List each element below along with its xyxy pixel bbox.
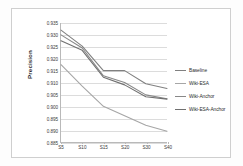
chart-figure: Precision 0.8850.8900.8950.9000.9050.910…: [0, 0, 243, 166]
data-series-lines: [61, 23, 167, 142]
legend-label: Wiki-ESA-Anchor: [189, 107, 225, 112]
x-tick-mark: [125, 142, 126, 144]
legend-item[interactable]: Wiki-Anchor: [175, 91, 243, 102]
legend-swatch-icon: [175, 70, 186, 71]
series-line: [61, 35, 167, 99]
y-tick-label: 0.885: [47, 141, 58, 146]
legend-swatch-icon: [175, 96, 186, 97]
legend-swatch-icon: [175, 83, 186, 84]
x-tick-mark: [61, 142, 62, 144]
y-tick-label: 0.905: [47, 93, 58, 98]
legend-item[interactable]: Wiki-ESA-Anchor: [175, 104, 243, 115]
x-tick-mark: [168, 142, 169, 144]
legend-swatch-icon: [175, 109, 186, 110]
x-tick-label: S20: [121, 145, 129, 150]
x-tick-label: S5: [58, 145, 64, 150]
x-tick-label: S10: [78, 145, 86, 150]
legend-label: Wiki-ESA: [189, 81, 209, 86]
y-tick-label: 0.900: [47, 105, 58, 110]
x-tick-label: S40: [164, 145, 172, 150]
chart-frame: Precision 0.8850.8900.8950.9000.9050.910…: [11, 8, 231, 158]
y-tick-label: 0.920: [47, 57, 58, 62]
legend-label: Baseline: [189, 68, 207, 73]
y-tick-label: 0.935: [47, 21, 58, 26]
x-tick-label: S15: [100, 145, 108, 150]
y-tick-label: 0.890: [47, 129, 58, 134]
chart-legend: BaselineWiki-ESAWiki-AnchorWiki-ESA-Anch…: [175, 65, 243, 117]
y-axis-title: Precision: [26, 35, 33, 95]
legend-item[interactable]: Baseline: [175, 65, 243, 76]
legend-label: Wiki-Anchor: [189, 94, 214, 99]
y-tick-label: 0.915: [47, 69, 58, 74]
series-line: [61, 65, 167, 132]
y-tick-label: 0.910: [47, 81, 58, 86]
plot-area: 0.8850.8900.8950.9000.9050.9100.9150.920…: [60, 23, 167, 143]
y-tick-label: 0.930: [47, 33, 58, 38]
legend-item[interactable]: Wiki-ESA: [175, 78, 243, 89]
x-tick-label: S30: [143, 145, 151, 150]
y-tick-label: 0.925: [47, 45, 58, 50]
series-line: [61, 41, 167, 99]
y-tick-label: 0.895: [47, 117, 58, 122]
x-tick-mark: [82, 142, 83, 144]
gridline: [61, 143, 167, 144]
x-tick-mark: [104, 142, 105, 144]
x-tick-mark: [147, 142, 148, 144]
